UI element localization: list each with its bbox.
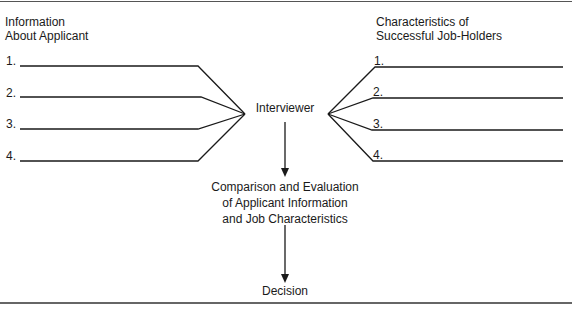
comparison-line-2: of Applicant Information bbox=[185, 195, 385, 211]
bottom-border-rule bbox=[0, 302, 572, 304]
right-item-3-line bbox=[328, 114, 563, 130]
connector-lines bbox=[0, 0, 572, 311]
comparison-line-1: Comparison and Evaluation bbox=[185, 179, 385, 195]
interviewer-node: Interviewer bbox=[225, 101, 345, 115]
decision-node: Decision bbox=[235, 284, 335, 298]
right-item-2-line bbox=[328, 98, 563, 114]
right-item-1-line bbox=[328, 67, 563, 114]
comparison-line-3: and Job Characteristics bbox=[185, 211, 385, 227]
right-item-4-line bbox=[328, 114, 563, 161]
arrow-2-head-icon bbox=[281, 274, 289, 283]
left-item-1-line bbox=[20, 66, 245, 114]
comparison-evaluation-node: Comparison and Evaluation of Applicant I… bbox=[185, 179, 385, 227]
left-item-3-line bbox=[20, 114, 245, 129]
left-item-4-line bbox=[20, 114, 245, 161]
left-item-2-line bbox=[20, 97, 245, 114]
arrow-1-head-icon bbox=[281, 168, 289, 177]
